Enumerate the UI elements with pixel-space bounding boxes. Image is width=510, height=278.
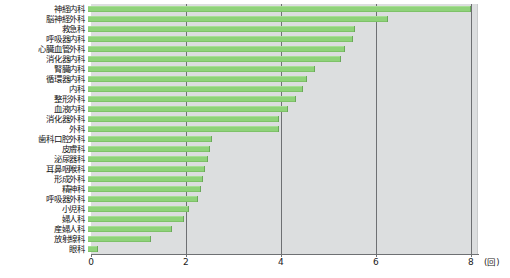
- bar: [88, 116, 278, 122]
- category-label: 皮膚科: [0, 145, 88, 153]
- axis-tick-label: 6: [373, 258, 379, 268]
- category-label: 整形外科: [0, 95, 88, 103]
- category-label: 小児科: [0, 205, 88, 213]
- bar-end-cap: [207, 156, 208, 162]
- bar-track: [88, 204, 510, 214]
- bar: [88, 206, 188, 212]
- chart-row: 脳神経外科: [0, 14, 510, 24]
- bar: [88, 126, 278, 132]
- chart-row: 産婦人科: [0, 224, 510, 234]
- chart-row: 皮膚科: [0, 144, 510, 154]
- bar-end-cap: [387, 16, 388, 22]
- category-label: 心臓血管外科: [0, 45, 88, 53]
- axis-tick-label: 4: [278, 258, 284, 268]
- bar-end-cap: [344, 46, 345, 52]
- bar: [88, 156, 207, 162]
- bar-end-cap: [183, 216, 184, 222]
- bar-end-cap: [188, 206, 189, 212]
- axis-tick-label: 0: [88, 258, 94, 268]
- bar: [88, 56, 340, 62]
- bar-track: [88, 44, 510, 54]
- bar-track: [88, 154, 510, 164]
- chart-row: 形成外科: [0, 174, 510, 184]
- bar-track: [88, 134, 510, 144]
- chart-row: 腎臓内科: [0, 64, 510, 74]
- bar-end-cap: [202, 176, 203, 182]
- bar: [88, 136, 211, 142]
- bar-end-cap: [354, 26, 355, 32]
- chart-row: 精神科: [0, 184, 510, 194]
- bar-track: [88, 34, 510, 44]
- chart-row: 救急科: [0, 24, 510, 34]
- bar: [88, 236, 150, 242]
- bar-track: [88, 164, 510, 174]
- chart-row: 泌尿器科: [0, 154, 510, 164]
- bar-track: [88, 4, 510, 14]
- category-label: 呼吸器外科: [0, 195, 88, 203]
- bar-track: [88, 144, 510, 154]
- category-label: 眼科: [0, 245, 88, 253]
- bar-end-cap: [278, 116, 279, 122]
- bar-end-cap: [211, 136, 212, 142]
- bar-end-cap: [209, 146, 210, 152]
- category-label: 消化器内科: [0, 55, 88, 63]
- bar: [88, 36, 352, 42]
- bar-end-cap: [287, 106, 288, 112]
- chart-row: 小児科: [0, 204, 510, 214]
- chart-rows: 神経内科脳神経外科救急科呼吸器内科心臓血管外科消化器内科腎臓内科循環器内科内科整…: [0, 4, 510, 254]
- bar-track: [88, 64, 510, 74]
- bar-end-cap: [314, 66, 315, 72]
- category-label: 精神科: [0, 185, 88, 193]
- bar-track: [88, 104, 510, 114]
- chart-row: 消化器外科: [0, 114, 510, 124]
- category-label: 歯科口腔外科: [0, 135, 88, 143]
- bar-end-cap: [200, 186, 201, 192]
- bar: [88, 76, 306, 82]
- category-label: 形成外科: [0, 175, 88, 183]
- chart-row: 神経内科: [0, 4, 510, 14]
- category-label: 外科: [0, 125, 88, 133]
- category-label: 泌尿器科: [0, 155, 88, 163]
- category-label: 放射線科: [0, 235, 88, 243]
- bar: [88, 96, 295, 102]
- chart-row: 消化器内科: [0, 54, 510, 64]
- bar-end-cap: [306, 76, 307, 82]
- bar-end-cap: [352, 36, 353, 42]
- category-label: 呼吸器内科: [0, 35, 88, 43]
- bar: [88, 86, 302, 92]
- bar-track: [88, 54, 510, 64]
- category-label: 腎臓内科: [0, 65, 88, 73]
- bar: [88, 66, 314, 72]
- bar-end-cap: [295, 96, 296, 102]
- bar: [88, 16, 387, 22]
- axis-tick-label: 2: [183, 258, 189, 268]
- chart-row: 循環器内科: [0, 74, 510, 84]
- chart-row: 歯科口腔外科: [0, 134, 510, 144]
- chart-row: 耳鼻咽喉科: [0, 164, 510, 174]
- bar: [88, 196, 197, 202]
- chart-row: 血液内科: [0, 104, 510, 114]
- category-label: 産婦人科: [0, 225, 88, 233]
- chart-row: 眼科: [0, 244, 510, 254]
- chart-row: 整形外科: [0, 94, 510, 104]
- bar: [88, 46, 344, 52]
- category-label: 神経内科: [0, 5, 88, 13]
- chart-row: 外科: [0, 124, 510, 134]
- bar: [88, 146, 209, 152]
- bar-end-cap: [197, 196, 198, 202]
- bar-end-cap: [302, 86, 303, 92]
- category-label: 消化器外科: [0, 115, 88, 123]
- bar-track: [88, 234, 510, 244]
- horizontal-bar-chart: 神経内科脳神経外科救急科呼吸器内科心臓血管外科消化器内科腎臓内科循環器内科内科整…: [0, 0, 510, 278]
- bar: [88, 166, 204, 172]
- bar-track: [88, 214, 510, 224]
- bar-track: [88, 94, 510, 104]
- bar: [88, 216, 183, 222]
- bar-track: [88, 74, 510, 84]
- bar-end-cap: [97, 246, 98, 252]
- bar-track: [88, 24, 510, 34]
- bar-end-cap: [204, 166, 205, 172]
- bar: [88, 186, 200, 192]
- bar-track: [88, 194, 510, 204]
- bar-track: [88, 224, 510, 234]
